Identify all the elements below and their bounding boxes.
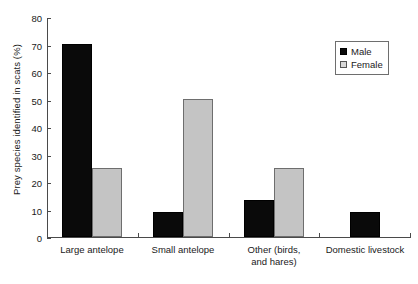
legend-label-male: Male: [351, 46, 372, 57]
bar-male-group-4: [350, 212, 380, 237]
y-tick-mark: [47, 183, 51, 184]
bar-male-group-1: [62, 44, 92, 237]
x-group-tick: [229, 233, 230, 238]
y-tick-mark: [47, 46, 51, 47]
x-group-tick: [138, 233, 139, 238]
filled-square-gray-icon: [340, 61, 347, 68]
y-tick-label: 10: [31, 205, 42, 216]
y-tick-label: 0: [37, 233, 42, 244]
y-tick-label: 40: [31, 123, 42, 134]
x-category-label-4: Domestic livestock: [310, 244, 418, 256]
x-group-tick: [319, 233, 320, 238]
y-tick-mark: [47, 211, 51, 212]
y-tick-label: 30: [31, 150, 42, 161]
y-tick-mark: [47, 101, 51, 102]
y-tick-mark: [47, 128, 51, 129]
legend-label-female: Female: [351, 59, 383, 70]
chart-legend: Male Female: [335, 41, 389, 75]
y-tick-mark: [47, 73, 51, 74]
bar-male-group-2: [153, 212, 183, 237]
y-tick-mark: [47, 156, 51, 157]
y-tick-label: 60: [31, 68, 42, 79]
bar-female-group-2: [183, 99, 213, 237]
legend-item-female: Female: [340, 58, 383, 71]
x-category-label-line1: Domestic livestock: [310, 244, 418, 256]
y-axis-title-text: Prey species identified in scats (%): [11, 44, 22, 195]
legend-item-male: Male: [340, 45, 383, 58]
bar-male-group-3: [244, 200, 274, 237]
y-tick-mark: [47, 18, 51, 19]
y-tick-label: 80: [31, 13, 42, 24]
y-tick-mark: [47, 238, 51, 239]
y-tick-label: 70: [31, 40, 42, 51]
y-tick-label: 20: [31, 178, 42, 189]
x-group-tick: [410, 233, 411, 238]
bar-female-group-3: [274, 168, 304, 237]
y-tick-label: 50: [31, 95, 42, 106]
bar-chart-figure: Prey species identified in scats (%) 010…: [0, 0, 418, 284]
bar-female-group-1: [92, 168, 122, 237]
y-axis-title: Prey species identified in scats (%): [6, 0, 26, 238]
filled-square-black-icon: [340, 48, 347, 55]
x-category-label-line2: and hares): [219, 256, 329, 268]
